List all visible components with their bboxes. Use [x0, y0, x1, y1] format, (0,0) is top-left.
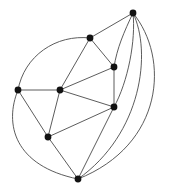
- graph-vertex-upper-right: [111, 64, 118, 71]
- graph-edge-v1-v2: [90, 13, 133, 38]
- graph-vertex-upper-middle: [87, 35, 94, 42]
- graph-edge-v1-v6: [114, 13, 134, 107]
- graph-vertex-center: [57, 87, 64, 94]
- graph-edge-v6-v8: [78, 107, 114, 179]
- graph-edge-v2-v5: [60, 38, 90, 90]
- graph-edge-v3-v5: [60, 67, 114, 90]
- graph-edge-v4-v7: [18, 90, 48, 137]
- graph-edge-v6-v7: [48, 107, 114, 137]
- graph-vertex-lower-left: [45, 134, 52, 141]
- graph-edge-v5-v7: [48, 90, 60, 137]
- vertex-layer: [15, 10, 137, 183]
- graph-edge-v5-v6: [60, 90, 114, 107]
- edge-layer: [12, 13, 154, 179]
- graph-vertex-left: [15, 87, 22, 94]
- graph-edge-v2-v3: [90, 38, 114, 67]
- graph-canvas: [0, 0, 173, 194]
- graph-figure: [0, 0, 173, 194]
- graph-vertex-bottom: [75, 176, 82, 183]
- graph-edge-v7-v8: [48, 137, 78, 179]
- graph-vertex-right: [111, 104, 118, 111]
- graph-vertex-top: [130, 10, 137, 17]
